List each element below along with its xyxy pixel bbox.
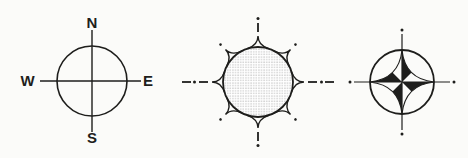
map-symbols-illustration: N E S W	[0, 0, 468, 158]
dash-dot-mark-south	[257, 132, 260, 147]
sun-symbol-figure	[182, 17, 334, 147]
axis-dot-e	[453, 81, 456, 84]
figure-canvas: N E S W	[0, 0, 468, 158]
label-west: W	[20, 72, 35, 89]
axis-dot-w	[349, 81, 352, 84]
axis-dot-n	[401, 29, 404, 32]
dash-dot-mark-east	[308, 81, 334, 84]
diagonal-dot-nw	[219, 43, 223, 47]
label-east: E	[143, 72, 153, 89]
compass-star-figure	[349, 29, 456, 136]
diagonal-dot-sw	[219, 118, 223, 122]
dot	[320, 81, 323, 84]
diagonal-dot-se	[294, 118, 298, 122]
dot	[193, 81, 196, 84]
diagonal-dot-ne	[294, 43, 298, 47]
sun-circle	[223, 47, 293, 117]
dash-dot-mark-north	[257, 17, 260, 32]
label-north: N	[87, 14, 98, 31]
dash-dot-mark-west	[182, 81, 208, 84]
compass-rose-figure: N E S W	[20, 14, 153, 146]
axis-dot-s	[401, 133, 404, 136]
dot	[257, 17, 260, 20]
dot	[257, 144, 260, 147]
label-south: S	[87, 129, 97, 146]
